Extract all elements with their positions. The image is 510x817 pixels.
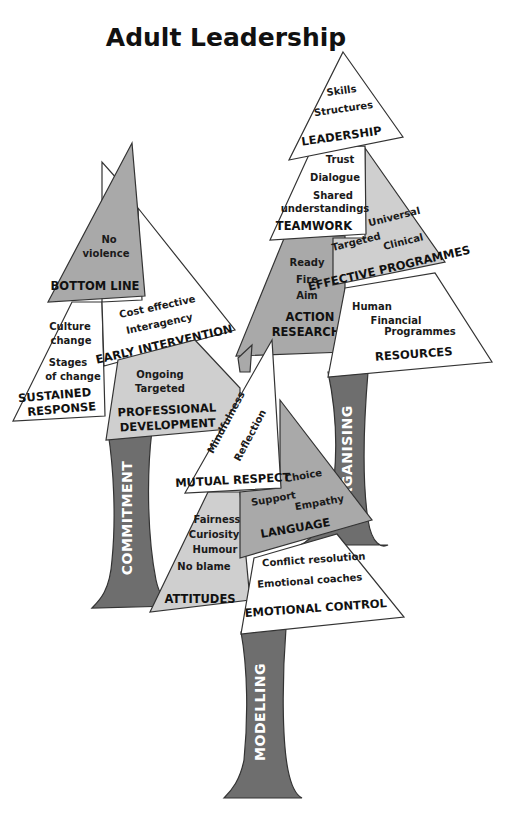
item-text: violence — [83, 248, 130, 259]
section-heading: ACTION — [286, 310, 335, 324]
item-text: change — [51, 335, 92, 346]
item-text: Humour — [193, 544, 238, 555]
item-text: Curiosity — [189, 529, 240, 540]
section-heading: ATTITUDES — [164, 592, 235, 606]
item-text: Shared — [313, 190, 353, 201]
section-heading: RESEARCH — [272, 325, 341, 339]
item-text: Human — [352, 301, 392, 312]
trunk-label-modelling: MODELLING — [252, 663, 268, 761]
item-text: No — [101, 234, 116, 245]
item-text: Financial — [371, 315, 422, 326]
item-text: Ready — [290, 257, 325, 268]
item-text: understandings — [281, 203, 370, 214]
item-text: No blame — [177, 561, 230, 572]
item-text: Dialogue — [310, 172, 360, 183]
item-text: Trust — [326, 154, 355, 165]
section-heading: BOTTOM LINE — [51, 279, 140, 293]
trunk-label-commitment: COMMITMENT — [119, 461, 135, 576]
item-text: Stages — [49, 357, 88, 368]
item-text: Targeted — [135, 383, 185, 394]
diagram-title: Adult Leadership — [106, 23, 346, 52]
adult-leadership-diagram: Adult Leadership ORGANISING Ready Fire A… — [0, 0, 510, 817]
item-text: of change — [45, 371, 101, 382]
section-heading: TEAMWORK — [276, 219, 353, 233]
item-text: Programmes — [384, 326, 456, 337]
item-text: Fairness — [193, 514, 240, 525]
item-text: Ongoing — [136, 369, 183, 380]
item-text: Culture — [49, 321, 91, 332]
